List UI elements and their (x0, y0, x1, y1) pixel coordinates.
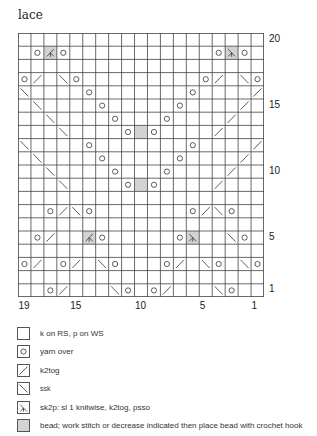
slash-left-icon (17, 382, 30, 395)
sk2p-r-symbol (186, 231, 199, 244)
yo-symbol (48, 288, 53, 293)
column-label: 15 (70, 300, 81, 311)
yo-symbol (255, 77, 260, 82)
ssk-symbol (111, 286, 119, 294)
k2tog-symbol (241, 154, 249, 162)
k2tog-symbol (59, 207, 67, 215)
gray-square-icon (17, 419, 30, 432)
ssk-symbol (33, 154, 41, 162)
yo-symbol (242, 50, 247, 55)
column-label: 1 (252, 300, 258, 311)
knit-symbol (135, 178, 148, 191)
k2tog-symbol (254, 141, 262, 149)
yo-symbol (87, 143, 92, 148)
yo-symbol (216, 261, 221, 266)
k2tog-symbol (215, 181, 223, 189)
k2tog-symbol (228, 168, 236, 176)
ssk-symbol (202, 260, 210, 268)
ssk-symbol (59, 128, 67, 136)
row-label: 20 (269, 33, 280, 44)
yo-symbol (61, 261, 66, 266)
yo-symbol (100, 235, 105, 240)
circle-icon (17, 345, 30, 358)
yo-symbol (113, 169, 118, 174)
legend-text: sk2p: sl 1 knitwise, k2tog, psso (40, 403, 150, 412)
yo-symbol (151, 182, 156, 187)
yo-symbol (190, 143, 195, 148)
yo-symbol (164, 116, 169, 121)
yo-symbol (35, 50, 40, 55)
yo-symbol (203, 77, 208, 82)
yo-symbol (100, 103, 105, 108)
yo-symbol (216, 50, 221, 55)
yo-symbol (113, 261, 118, 266)
row-label: 10 (269, 165, 280, 176)
yo-symbol (22, 77, 27, 82)
row-label: 5 (269, 231, 275, 242)
ssk-symbol (33, 102, 41, 110)
k2tog-symbol (215, 128, 223, 136)
yo-symbol (190, 209, 195, 214)
sk2p-l-symbol (44, 46, 57, 59)
knit-symbol (135, 125, 148, 138)
k2tog-symbol (215, 75, 223, 83)
k2tog-symbol (241, 102, 249, 110)
yo-symbol (190, 90, 195, 95)
yo-symbol (100, 156, 105, 161)
ssk-symbol (98, 260, 106, 268)
chart-title: lace (18, 8, 43, 22)
yo-symbol (125, 288, 130, 293)
k2tog-symbol (33, 260, 41, 268)
yo-symbol (113, 116, 118, 121)
yo-symbol (74, 77, 79, 82)
row-label: 1 (269, 283, 275, 294)
k2tog-symbol (176, 260, 184, 268)
chart-grid-svg (18, 33, 264, 297)
k2tog-symbol (59, 286, 67, 294)
k2tog-symbol (33, 75, 41, 83)
yo-symbol (177, 156, 182, 161)
yo-symbol (229, 209, 234, 214)
yo-symbol (164, 261, 169, 266)
yo-symbol (61, 50, 66, 55)
sk2p-r-symbol (225, 46, 238, 59)
legend-text: k on RS, p on WS (40, 329, 104, 338)
yo-symbol (255, 261, 260, 266)
yo-symbol (229, 288, 234, 293)
empty-square-icon (17, 327, 30, 340)
yo-symbol (151, 129, 156, 134)
ssk-symbol (21, 141, 29, 149)
yo-symbol (177, 103, 182, 108)
k2tog-symbol (228, 115, 236, 123)
ssk-symbol (59, 75, 67, 83)
yo-symbol (87, 90, 92, 95)
yo-symbol (242, 235, 247, 240)
row-label: 15 (269, 99, 280, 110)
legend-item-sk2p: sk2p: sl 1 knitwise, k2tog, psso (17, 398, 302, 417)
ssk-symbol (241, 75, 249, 83)
yo-symbol (177, 235, 182, 240)
yo-symbol (48, 209, 53, 214)
yo-symbol (164, 169, 169, 174)
legend-item-knit: k on RS, p on WS (17, 324, 302, 343)
column-label: 10 (135, 300, 146, 311)
sk2p-l-symbol (83, 231, 96, 244)
k2tog-symbol (254, 88, 262, 96)
legend-item-yarn-over: yarn over (17, 343, 302, 362)
legend: k on RS, p on WS yarn over k2tog ssk sk2… (17, 324, 302, 435)
legend-text: yarn over (40, 347, 73, 356)
ssk-symbol (59, 181, 67, 189)
legend-text: ssk (40, 385, 51, 392)
ssk-symbol (215, 207, 223, 215)
k2tog-symbol (163, 286, 171, 294)
legend-text: bead; work stitch or decrease indicated … (40, 421, 302, 430)
ssk-symbol (228, 234, 236, 242)
yo-symbol (125, 129, 130, 134)
column-label: 5 (200, 300, 206, 311)
legend-item-bead: bead; work stitch or decrease indicated … (17, 417, 302, 436)
k2tog-symbol (46, 234, 54, 242)
knitting-chart-grid (18, 33, 264, 297)
yo-symbol (87, 209, 92, 214)
ssk-symbol (21, 88, 29, 96)
yo-symbol (22, 261, 27, 266)
